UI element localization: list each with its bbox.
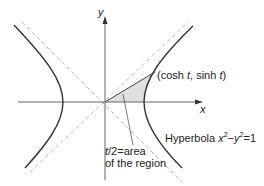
point-label: (cosh t, sinh t) [157, 69, 226, 81]
x-axis-label: x [200, 103, 206, 115]
hyperbola-left-branch [14, 25, 63, 168]
y-axis-label: y [98, 6, 104, 18]
hyperbola-right-branch [144, 26, 193, 168]
curve-label: Hyperbola x2−y2=1 [165, 129, 256, 144]
area-label-line2: of the region [105, 157, 166, 169]
area-label-line1: t/2=area [105, 145, 146, 157]
